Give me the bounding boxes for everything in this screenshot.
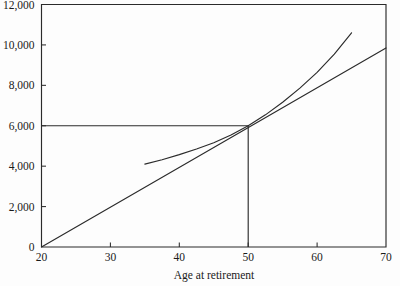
chart-figure: 203040506070 02,0004,0006,0008,00010,000… bbox=[0, 0, 400, 286]
chart-background bbox=[0, 0, 400, 286]
x-tick-label-50: 50 bbox=[242, 251, 254, 263]
y-tick-label-2000: 2,000 bbox=[9, 201, 35, 214]
y-tick-label-6000: 6,000 bbox=[9, 120, 35, 133]
x-tick-label-40: 40 bbox=[174, 251, 186, 263]
x-tick-label-20: 20 bbox=[36, 251, 48, 263]
x-axis-title: Age at retirement bbox=[174, 269, 255, 282]
x-tick-label-30: 30 bbox=[105, 251, 117, 263]
y-tick-label-8000: 8,000 bbox=[9, 79, 35, 92]
chart-canvas: 203040506070 02,0004,0006,0008,00010,000… bbox=[0, 0, 400, 286]
y-tick-label-4000: 4,000 bbox=[9, 160, 35, 173]
x-tick-label-70: 70 bbox=[380, 251, 392, 263]
y-tick-label-0: 0 bbox=[29, 241, 35, 253]
y-tick-label-12000: 12,000 bbox=[3, 0, 35, 12]
x-tick-label-60: 60 bbox=[311, 251, 323, 263]
y-tick-label-10000: 10,000 bbox=[3, 39, 35, 52]
